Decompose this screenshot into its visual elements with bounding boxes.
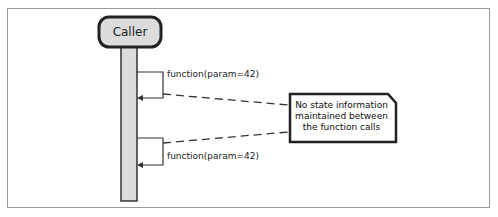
note-line-2: maintained between — [290, 111, 393, 122]
note-line-1: No state information — [290, 100, 393, 111]
caller-label: Caller — [99, 25, 161, 39]
self-call-arrow-2 — [137, 138, 163, 168]
note-connector-1 — [163, 94, 288, 105]
note-connector-2 — [163, 132, 288, 143]
caller-lifeline — [121, 42, 137, 201]
call-label-2: function(param=42) — [167, 151, 259, 161]
self-call-arrow-1 — [137, 72, 163, 101]
call-label-1: function(param=42) — [167, 69, 259, 79]
diagram-canvas — [0, 0, 498, 217]
note-text: No state information maintained between … — [290, 93, 393, 139]
note-line-3: the function calls — [290, 122, 393, 133]
